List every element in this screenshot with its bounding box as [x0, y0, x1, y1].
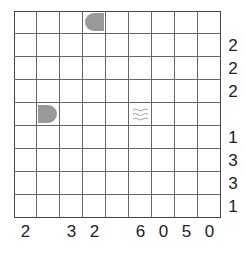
grid-cell[interactable] [198, 126, 221, 149]
grid-cell[interactable] [129, 103, 152, 126]
grid-cell[interactable] [83, 11, 106, 34]
grid-cell[interactable] [106, 80, 129, 103]
grid-cell[interactable] [83, 172, 106, 195]
row-clue: 3 [226, 172, 240, 195]
grid-cell[interactable] [37, 172, 60, 195]
grid-cell[interactable] [129, 57, 152, 80]
grid-cell[interactable] [129, 11, 152, 34]
grid-cell[interactable] [198, 11, 221, 34]
grid-cell[interactable] [14, 57, 37, 80]
grid-cell[interactable] [198, 34, 221, 57]
grid-cell[interactable] [14, 11, 37, 34]
grid-cell[interactable] [37, 57, 60, 80]
grid-cell[interactable] [129, 126, 152, 149]
grid-cell[interactable] [83, 80, 106, 103]
grid-cell[interactable] [106, 103, 129, 126]
grid-cell[interactable] [175, 195, 198, 218]
grid-cell[interactable] [152, 103, 175, 126]
row-clue [226, 103, 240, 126]
grid-cell[interactable] [37, 195, 60, 218]
grid-cell[interactable] [83, 195, 106, 218]
grid-cell[interactable] [152, 57, 175, 80]
column-clue [106, 221, 129, 243]
row-clue: 1 [226, 195, 240, 218]
grid-cell[interactable] [152, 149, 175, 172]
grid-cell[interactable] [14, 103, 37, 126]
grid-cell[interactable] [198, 103, 221, 126]
water-icon [132, 107, 149, 122]
grid-cell[interactable] [152, 80, 175, 103]
grid-cell[interactable] [83, 103, 106, 126]
grid-cell[interactable] [60, 195, 83, 218]
grid-cell[interactable] [37, 103, 60, 126]
grid-cell[interactable] [175, 34, 198, 57]
column-clue: 2 [14, 221, 37, 243]
column-clue: 3 [60, 221, 83, 243]
grid-cell[interactable] [175, 80, 198, 103]
grid-cell[interactable] [37, 11, 60, 34]
grid-cell[interactable] [37, 34, 60, 57]
grid-cell[interactable] [198, 149, 221, 172]
grid-cell[interactable] [106, 34, 129, 57]
column-clue: 2 [83, 221, 106, 243]
grid-cell[interactable] [152, 34, 175, 57]
grid-cell[interactable] [14, 80, 37, 103]
grid-cell[interactable] [60, 57, 83, 80]
grid-cell[interactable] [60, 149, 83, 172]
column-clue: 6 [129, 221, 152, 243]
grid-cell[interactable] [106, 11, 129, 34]
grid-cell[interactable] [106, 195, 129, 218]
ship-right-end-icon [38, 105, 57, 123]
grid-cell[interactable] [152, 172, 175, 195]
grid-cell[interactable] [83, 34, 106, 57]
grid-cell[interactable] [106, 126, 129, 149]
column-clue: 0 [198, 221, 221, 243]
grid-cell[interactable] [129, 172, 152, 195]
column-clue: 0 [152, 221, 175, 243]
row-clue: 2 [226, 34, 240, 57]
grid-cell[interactable] [198, 195, 221, 218]
grid-cell[interactable] [37, 126, 60, 149]
grid-cell[interactable] [106, 57, 129, 80]
grid-cell[interactable] [60, 34, 83, 57]
grid-cell[interactable] [175, 57, 198, 80]
grid-cell[interactable] [60, 11, 83, 34]
grid-cell[interactable] [175, 103, 198, 126]
grid-cell[interactable] [198, 80, 221, 103]
grid-cell[interactable] [152, 195, 175, 218]
grid-cell[interactable] [14, 195, 37, 218]
row-clue: 2 [226, 80, 240, 103]
grid-cell[interactable] [175, 11, 198, 34]
grid-cell[interactable] [198, 172, 221, 195]
grid-cell[interactable] [14, 172, 37, 195]
ship-left-end-icon [85, 13, 104, 31]
grid-cell[interactable] [129, 80, 152, 103]
grid-cell[interactable] [83, 57, 106, 80]
grid-cell[interactable] [60, 80, 83, 103]
grid-cell[interactable] [60, 172, 83, 195]
column-clue [37, 221, 60, 243]
grid-cell[interactable] [60, 103, 83, 126]
grid-cell[interactable] [60, 126, 83, 149]
grid-cell[interactable] [83, 149, 106, 172]
grid-cell[interactable] [106, 172, 129, 195]
row-clue: 1 [226, 126, 240, 149]
grid-cell[interactable] [175, 149, 198, 172]
grid-cell[interactable] [129, 195, 152, 218]
grid-cell[interactable] [129, 34, 152, 57]
grid-cell[interactable] [83, 126, 106, 149]
grid-cell[interactable] [14, 149, 37, 172]
grid-cell[interactable] [14, 34, 37, 57]
grid-cell[interactable] [106, 149, 129, 172]
grid-cell[interactable] [129, 149, 152, 172]
grid-cell[interactable] [152, 11, 175, 34]
grid-cell[interactable] [175, 126, 198, 149]
row-clue: 3 [226, 149, 240, 172]
grid-cell[interactable] [37, 80, 60, 103]
grid-cell[interactable] [14, 126, 37, 149]
grid-cell[interactable] [175, 172, 198, 195]
grid-cell[interactable] [152, 126, 175, 149]
grid-cell[interactable] [37, 149, 60, 172]
grid-cell[interactable] [198, 57, 221, 80]
row-clue [226, 11, 240, 34]
